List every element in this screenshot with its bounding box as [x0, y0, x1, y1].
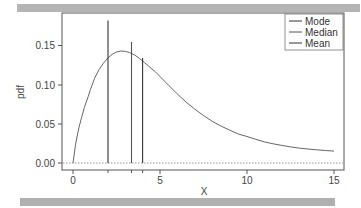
y-axis-title: pdf	[15, 85, 26, 99]
legend: Mode Median Mean	[285, 14, 343, 50]
y-axis: 0.00 0.05 0.10 0.15 pdf	[15, 40, 62, 169]
y-tick-label: 0.00	[36, 158, 56, 169]
y-tick-label: 0.05	[36, 119, 56, 130]
x-axis-title: X	[201, 186, 208, 197]
x-axis: 0 5 10 15 X	[70, 170, 340, 197]
pdf-curve	[73, 51, 334, 163]
y-tick-label: 0.15	[36, 40, 56, 51]
x-tick-label: 0	[70, 175, 76, 186]
legend-label-mean: Mean	[305, 38, 330, 49]
legend-label-median: Median	[305, 27, 338, 38]
bottom-decorative-bar	[20, 198, 335, 206]
y-tick-label: 0.10	[36, 80, 56, 91]
x-tick-label: 5	[157, 175, 163, 186]
pdf-chart: 0.00 0.05 0.10 0.15 pdf 0 5 10 15 X Mode…	[0, 0, 361, 208]
x-tick-label: 15	[328, 175, 340, 186]
legend-label-mode: Mode	[305, 16, 330, 27]
x-tick-label: 10	[241, 175, 253, 186]
